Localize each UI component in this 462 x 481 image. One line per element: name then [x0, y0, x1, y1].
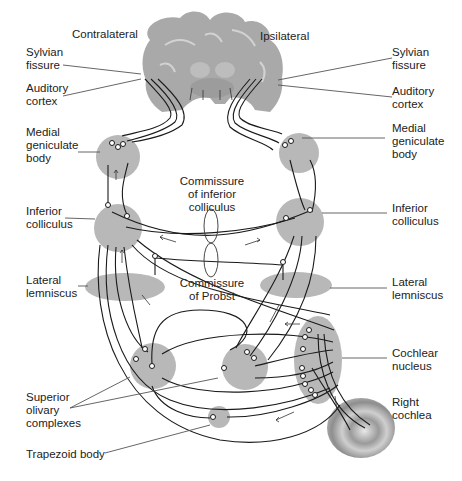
left-lateral-lemniscus	[85, 273, 165, 301]
right-inferior-colliculus-label: Inferior colliculus	[392, 202, 439, 228]
superior-olivary-complexes-label: Superior olivary complexes	[26, 391, 81, 430]
left-inferior-colliculus-label: Inferior colliculus	[26, 205, 73, 231]
ipsilateral-label: Ipsilateral	[260, 30, 309, 43]
left-lateral-lemniscus-label: Lateral lemniscus	[26, 274, 77, 300]
nerve-fibers	[98, 79, 370, 442]
commissure-probst-label: Commissure of Probst	[172, 277, 252, 303]
right-auditory-cortex-label: Auditory cortex	[392, 85, 434, 111]
trapezoid-body-label: Trapezoid body	[26, 448, 105, 461]
cochlear-nucleus-shape	[294, 316, 342, 404]
left-auditory-cortex-label: Auditory cortex	[26, 82, 68, 108]
left-inferior-colliculus	[94, 204, 142, 252]
left-medial-geniculate-label: Medial geniculate body	[26, 126, 78, 165]
brain-coronal-section	[143, 11, 283, 112]
contralateral-label: Contralateral	[72, 28, 138, 41]
cochlear-nucleus-label: Cochlear nucleus	[392, 347, 438, 373]
right-lateral-lemniscus-label: Lateral lemniscus	[392, 276, 443, 302]
right-lateral-lemniscus	[260, 272, 332, 298]
commissure-inferior-colliculus-label: Commissure of inferior colliculus	[172, 175, 252, 214]
left-sylvian-fissure-label: Sylvian fissure	[26, 46, 63, 72]
commissure-inferior-colliculus-ring	[204, 209, 218, 243]
commissure-probst-ring	[204, 243, 218, 277]
right-cochlea-label: Right cochlea	[392, 396, 432, 422]
right-sylvian-fissure-label: Sylvian fissure	[392, 46, 429, 72]
right-medial-geniculate-label: Medial geniculate body	[392, 122, 444, 161]
right-inferior-colliculus	[276, 198, 324, 246]
